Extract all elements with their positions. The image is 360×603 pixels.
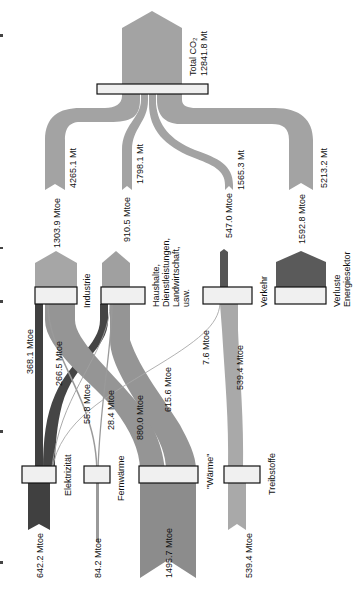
verluste-arrow [276,251,326,288]
node-verkehr[interactable] [203,287,252,304]
total-label: Total CO₂ [188,37,198,76]
verkehr-label: Verkehr [259,276,269,307]
svg-text:Energiesektor: Energiesektor [342,251,352,307]
node-industrie[interactable] [35,287,77,304]
co2-flow-verluste [157,92,313,190]
svg-text:Verluste: Verluste [332,274,342,307]
co2-verluste-value: 5213.2 Mt [319,147,329,188]
co2-haushalte-value: 1798.1 Mt [135,143,145,184]
verluste-label: Verluste Energiesektor [332,251,352,307]
co2-industrie-value: 4265.1 Mt [68,147,78,188]
svg-text:Dienstleistungen,: Dienstleistungen, [161,238,171,307]
svg-text:Haushalte,: Haushalte, [151,264,161,307]
svg-text:usw.: usw. [181,289,191,307]
treibstoffe-label: Treibstoffe [267,453,277,495]
link-label-266: 266.5 Mtoe [54,341,64,386]
haushalte-value: 910.5 Mtoe [122,197,132,242]
verkehr-arrow [220,249,228,288]
industrie-label: Industrie [82,273,92,308]
elektrizitaet-value: 642.2 Mtoe [35,533,45,578]
industrie-value: 1303.9 Mtoe [52,198,62,248]
total-value: 12841.8 Mt [199,30,209,76]
node-haushalte[interactable] [101,287,145,304]
node-treibstoffe[interactable] [224,466,260,483]
link-label-368: 368.1 Mtoe [25,329,35,374]
cropped-edge-marks [0,34,3,564]
fernwaerme-label: Fernwärme [116,455,126,501]
waerme-value: 1495.7 Mtoe [164,528,174,578]
node-total[interactable] [97,84,208,94]
industrie-arrow [35,251,77,288]
link-label-28: 28.4 Mtoe [106,390,116,430]
haushalte-label: Haushalte, Dienstleistungen, Landwirtsch… [151,238,191,307]
link-industrie-elektrizitaet [35,304,43,470]
total-co2-arrow [122,11,182,86]
haushalte-arrow [102,251,130,288]
treibstoffe-value: 539.4 Mtoe [244,533,254,578]
link-label-539-top: 539.4 Mtoe [235,345,245,390]
verluste-value: 1592.8 Mtoe [297,194,307,244]
link-label-7-6: 7.6 Mtoe [201,330,211,365]
node-verluste[interactable] [275,287,326,304]
link-label-55: 55.8 Mtoe [82,384,92,424]
node-waerme[interactable] [139,466,198,483]
node-fernwaerme[interactable] [84,466,110,483]
svg-text:Landwirtschaft,: Landwirtschaft, [171,246,181,307]
node-elektrizitaet[interactable] [22,466,56,483]
co2-verkehr-value: 1565.3 Mt [236,149,246,190]
sankey-diagram: Total CO₂ 12841.8 Mt 4265.1 Mt 1798.1 Mt… [0,0,360,603]
fernwaerme-value: 84.2 Mtoe [93,538,103,578]
link-label-615: 615.6 Mtoe [163,367,173,412]
link-label-880: 880.0 Mtoe [135,395,145,440]
waerme-label: "Wärme" [205,454,215,489]
elektrizitaet-label: Elektrizität [63,454,73,496]
verkehr-value: 547.0 Mtoe [224,193,234,238]
